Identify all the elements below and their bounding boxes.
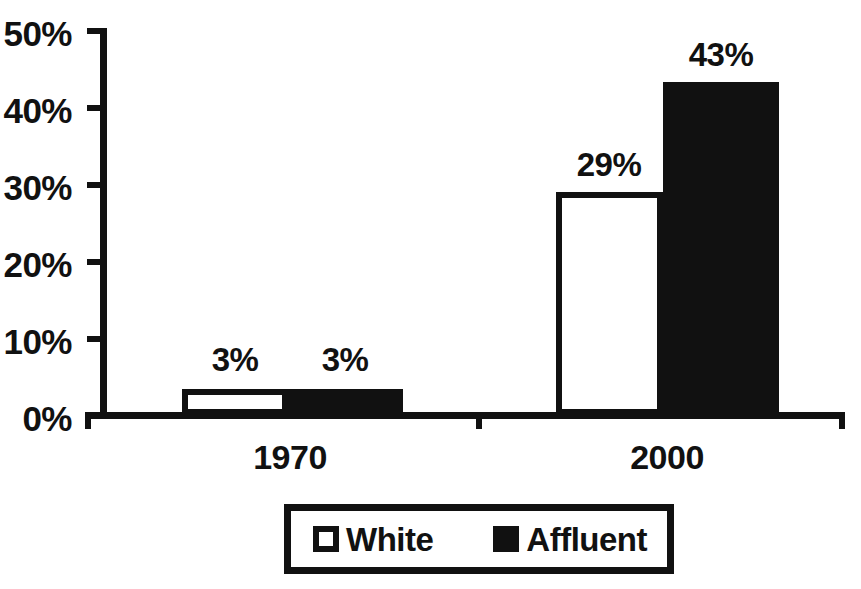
bar-2000-affluent <box>663 82 779 415</box>
x-axis-category-1970: 1970 <box>215 440 365 474</box>
bar-1970-affluent <box>288 389 403 415</box>
y-axis-label-0: 0% <box>0 401 72 436</box>
bar-value-1970-affluent: 3% <box>285 343 405 376</box>
y-axis-tick-50 <box>87 28 105 34</box>
chart-legend: White Affluent <box>284 504 674 574</box>
bar-value-2000-affluent: 43% <box>661 38 781 71</box>
black-square-icon <box>493 526 519 552</box>
legend-item-affluent: Affluent <box>493 523 647 556</box>
y-axis-label-50: 50% <box>0 16 72 51</box>
bar-1970-white <box>182 389 288 415</box>
y-axis-tick-30 <box>87 182 105 188</box>
x-axis-tick-end <box>839 412 845 429</box>
bar-value-1970-white: 3% <box>175 343 295 376</box>
x-axis-tick-start <box>85 412 91 429</box>
legend-item-white: White <box>313 523 433 556</box>
bar-chart: 50% 40% 30% 20% 10% 0% 1970 2000 3% 3% 2… <box>0 0 861 589</box>
y-axis-tick-20 <box>87 259 105 265</box>
y-axis-line <box>100 28 107 418</box>
y-axis-label-10: 10% <box>0 324 72 359</box>
legend-label-white: White <box>346 523 433 556</box>
x-axis-tick-middle <box>476 412 482 429</box>
bar-2000-white <box>556 192 663 415</box>
y-axis-label-20: 20% <box>0 247 72 282</box>
y-axis-tick-10 <box>87 336 105 342</box>
legend-label-affluent: Affluent <box>526 523 647 556</box>
white-square-outline-icon <box>313 526 339 552</box>
x-axis-category-2000: 2000 <box>592 440 742 474</box>
y-axis-label-30: 30% <box>0 170 72 205</box>
y-axis-label-40: 40% <box>0 93 72 128</box>
bar-value-2000-white: 29% <box>549 148 669 181</box>
y-axis-tick-40 <box>87 105 105 111</box>
